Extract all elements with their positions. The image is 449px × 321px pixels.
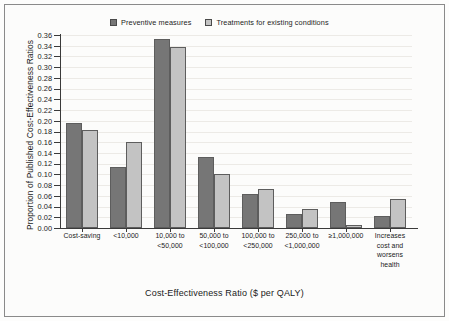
bar-group [368, 35, 412, 228]
x-axis-line [60, 228, 418, 229]
bar-treatments [126, 142, 142, 228]
legend-item-preventive-measures: Preventive measures [110, 18, 191, 27]
plot-area [60, 35, 412, 228]
legend-item-treatments: Treatments for existing conditions [205, 18, 328, 27]
bar-treatments [214, 174, 230, 228]
x-axis-title: Cost-Effectiveness Ratio ($ per QALY) [0, 288, 449, 298]
y-axis-tick-label: 0.16 [24, 138, 52, 147]
x-axis-tick-label-line: health [360, 260, 420, 270]
y-axis-tick-label: 0.24 [24, 95, 52, 104]
y-axis-tick [54, 153, 60, 154]
chart-legend: Preventive measures Treatments for exist… [110, 18, 329, 27]
x-axis-tick-label-line: <1,000,000 [272, 241, 332, 251]
y-axis-tick-label: 0.12 [24, 159, 52, 168]
y-axis-tick [54, 185, 60, 186]
y-axis-tick-label: 0.06 [24, 192, 52, 201]
bar-preventive [374, 216, 390, 228]
x-axis-tick-label-line: cost and [360, 241, 420, 251]
bar-preventive [242, 194, 258, 228]
legend-label-preventive-measures: Preventive measures [121, 18, 191, 27]
y-axis-tick-label: 0.18 [24, 127, 52, 136]
bar-group [236, 35, 280, 228]
y-axis-tick [54, 142, 60, 143]
y-axis-tick-label: 0.00 [24, 224, 52, 233]
y-axis-tick-label: 0.08 [24, 181, 52, 190]
bar-treatments [390, 199, 406, 228]
y-axis-tick [54, 207, 60, 208]
y-axis-tick-label: 0.02 [24, 213, 52, 222]
y-axis-tick [54, 217, 60, 218]
y-axis-tick [54, 89, 60, 90]
legend-swatch-preventive-measures [110, 19, 117, 26]
y-axis-tick-label: 0.36 [24, 31, 52, 40]
y-axis-tick [54, 121, 60, 122]
bar-treatments [258, 189, 274, 228]
y-axis-tick-label: 0.30 [24, 63, 52, 72]
y-axis-tick-label: 0.20 [24, 117, 52, 126]
y-axis-tick [54, 46, 60, 47]
y-axis-tick [54, 228, 60, 229]
y-axis-tick-label: 0.34 [24, 42, 52, 51]
x-axis-tick-label-line: worsens [360, 250, 420, 260]
y-axis-tick [54, 196, 60, 197]
bar-preventive [286, 214, 302, 228]
y-axis-tick [54, 78, 60, 79]
y-axis-tick [54, 99, 60, 100]
y-axis-tick-label: 0.26 [24, 84, 52, 93]
bar-preventive [330, 202, 346, 228]
y-axis-tick-label: 0.32 [24, 52, 52, 61]
y-axis-tick [54, 164, 60, 165]
y-axis-tick-label: 0.04 [24, 202, 52, 211]
bar-preventive [66, 123, 82, 228]
x-axis-tick-label-line: Increases [360, 231, 420, 241]
bar-preventive [110, 167, 126, 228]
y-axis-tick [54, 67, 60, 68]
bar-group [280, 35, 324, 228]
bar-treatments [82, 130, 98, 228]
bar-group [148, 35, 192, 228]
y-axis-tick-label: 0.10 [24, 170, 52, 179]
bar-group [324, 35, 368, 228]
bar-treatments [170, 47, 186, 228]
legend-label-treatments: Treatments for existing conditions [216, 18, 328, 27]
bar-treatments [302, 209, 318, 228]
y-axis-tick [54, 35, 60, 36]
y-axis-tick-label: 0.28 [24, 74, 52, 83]
legend-swatch-treatments [205, 19, 212, 26]
y-axis-tick-label: 0.14 [24, 149, 52, 158]
x-axis-tick-label: Increasescost andworsenshealth [360, 231, 420, 269]
y-axis-tick-label: 0.22 [24, 106, 52, 115]
y-axis-tick [54, 174, 60, 175]
y-axis-tick [54, 56, 60, 57]
chart-figure: Preventive measures Treatments for exist… [0, 0, 449, 321]
bar-group [104, 35, 148, 228]
y-axis-tick [54, 132, 60, 133]
bar-preventive [198, 157, 214, 228]
bar-preventive [154, 39, 170, 228]
bar-group [60, 35, 104, 228]
y-axis-tick [54, 110, 60, 111]
bar-group [192, 35, 236, 228]
y-axis-line [60, 34, 61, 229]
